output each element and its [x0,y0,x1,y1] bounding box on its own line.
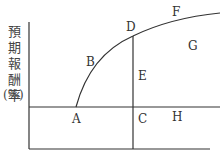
y-label-char: 酬 [6,72,22,88]
point-label-h: H [172,111,182,123]
y-label-char: 報 [6,56,22,72]
point-label-a: A [72,113,81,125]
point-label-f: F [172,6,180,18]
y-label-char: 期 [6,40,22,56]
point-label-e: E [138,70,147,82]
point-label-b: B [86,56,95,68]
point-label-c: C [138,113,147,125]
y-axis-unit: (%) [3,88,24,102]
diagram-canvas [0,0,224,156]
point-label-d: D [126,21,136,33]
point-label-g: G [188,40,198,52]
y-label-char: 預 [6,24,22,40]
frontier-curve [76,13,220,107]
